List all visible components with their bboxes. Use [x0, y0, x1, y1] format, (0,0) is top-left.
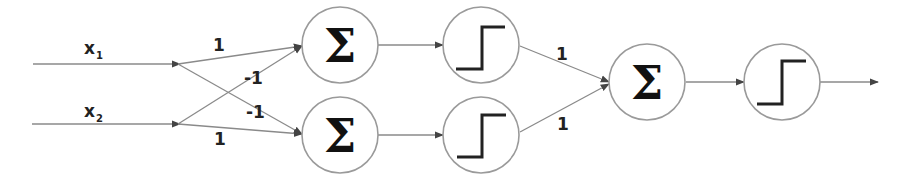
input-label-x1-subscript: 1 [96, 50, 103, 61]
edge-x1-s2 [178, 64, 302, 134]
neural-network-diagram: Σ Σ Σ x1 x2 1 -1 -1 1 1 1 [0, 0, 914, 182]
input-label-x1: x1 [84, 40, 103, 61]
weight-label-h1-s3: 1 [556, 46, 568, 63]
input-label-x2-subscript: 2 [96, 113, 103, 124]
input-label-x2: x2 [84, 103, 103, 124]
input-label-x2-base: x [84, 101, 95, 121]
edge-x1-s1 [178, 46, 302, 64]
weight-label-x2-s2: 1 [214, 131, 226, 148]
weight-label-x1-s2: -1 [246, 104, 265, 121]
edge-x2-s1 [178, 46, 302, 124]
weight-label-x2-s1: -1 [244, 70, 263, 87]
sigma-icon: Σ [324, 23, 357, 69]
weight-label-h2-s3: 1 [557, 116, 569, 133]
sigma-icon: Σ [324, 113, 357, 159]
sigma-icon: Σ [631, 60, 664, 106]
diagram-canvas [0, 0, 914, 182]
edge-x2-s2 [178, 124, 302, 134]
input-label-x1-base: x [84, 38, 95, 58]
weight-label-x1-s1: 1 [213, 37, 225, 54]
